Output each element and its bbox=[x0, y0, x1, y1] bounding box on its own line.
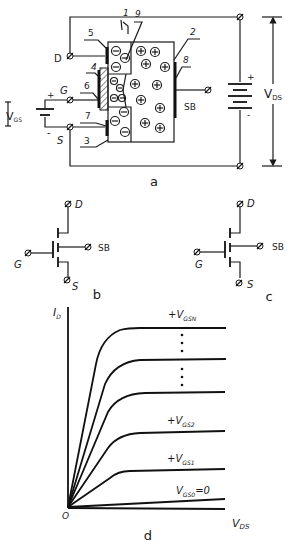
panel-a-device-cross-section: + - VDS bbox=[5, 8, 283, 189]
drain-label: D bbox=[247, 198, 255, 209]
part-label-1: 1 bbox=[123, 8, 129, 18]
panel-c-mosfet-symbol: D G SB S c bbox=[194, 198, 284, 304]
drain-line bbox=[58, 205, 68, 233]
substrate-label: SB bbox=[272, 242, 284, 252]
vgs-plus-sign: + bbox=[47, 90, 55, 100]
x-axis-label: VDS bbox=[232, 517, 250, 531]
vds-label: VDS bbox=[264, 87, 283, 102]
vgs-minus-sign: - bbox=[47, 127, 51, 138]
y-axis-label: ID bbox=[53, 306, 61, 320]
gate-oxide bbox=[100, 68, 108, 110]
caption-a: a bbox=[150, 174, 158, 189]
gate-label: G bbox=[195, 259, 203, 270]
part-label-3: 3 bbox=[84, 136, 90, 146]
x-axis bbox=[68, 508, 225, 509]
part-label-5: 5 bbox=[88, 28, 94, 38]
drain-label: D bbox=[54, 53, 62, 64]
vds-minus-sign: - bbox=[247, 110, 250, 120]
part-label-4: 4 bbox=[91, 62, 97, 72]
label-vgsn: +VGSN bbox=[168, 309, 197, 322]
vgs-label: VGS bbox=[6, 110, 22, 123]
vds-battery-icon bbox=[228, 84, 252, 108]
caption-c: c bbox=[265, 289, 272, 304]
caption-d: d bbox=[144, 528, 152, 543]
source-line bbox=[58, 262, 68, 278]
vgs-battery-icon bbox=[36, 109, 54, 115]
substrate-label: SB bbox=[98, 243, 110, 253]
patent-figure: + - VDS bbox=[0, 0, 302, 552]
drain-line bbox=[230, 205, 240, 233]
source-label: S bbox=[72, 281, 79, 292]
part-label-2: 2 bbox=[190, 27, 196, 37]
source-line bbox=[230, 262, 240, 278]
drain-label: D bbox=[75, 199, 83, 210]
gate-label: G bbox=[60, 85, 68, 96]
vgs-wire-bottom bbox=[45, 117, 67, 127]
source-label: S bbox=[247, 279, 254, 290]
substrate-label: SB bbox=[184, 102, 196, 112]
vgs-wire-top bbox=[45, 100, 67, 108]
curve-vgs0 bbox=[68, 499, 225, 507]
source-contact bbox=[106, 120, 109, 136]
caption-b: b bbox=[93, 287, 101, 302]
gate-label: G bbox=[14, 259, 22, 270]
drain-contact bbox=[106, 47, 109, 64]
label-vgs2: +VGS2 bbox=[167, 415, 195, 428]
part-label-7: 7 bbox=[85, 111, 91, 121]
panel-b-mosfet-symbol: D G SB S b bbox=[14, 199, 110, 302]
origin-label: O bbox=[62, 511, 69, 521]
part-label-9: 9 bbox=[135, 9, 141, 19]
part-label-8: 8 bbox=[183, 55, 189, 65]
vds-plus-sign: + bbox=[247, 72, 255, 82]
label-vgs0: VGS0=0 bbox=[176, 485, 210, 498]
part-label-6: 6 bbox=[84, 81, 90, 91]
curve-vgsn bbox=[68, 328, 226, 507]
label-vgs1: +VGS1 bbox=[167, 453, 195, 466]
panel-d-output-characteristics: ID VDS O +VGSN +VGS2 +VGS1 VGS0=0 d bbox=[53, 306, 250, 543]
source-label: S bbox=[57, 135, 64, 146]
